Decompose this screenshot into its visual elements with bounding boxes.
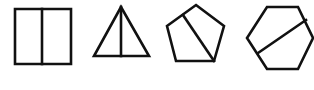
hexagon-divider-line bbox=[258, 20, 306, 53]
square-shape bbox=[15, 9, 71, 64]
pentagon-shape bbox=[167, 5, 224, 61]
shapes-figure bbox=[0, 0, 314, 90]
triangle-shape bbox=[94, 7, 149, 56]
pentagon-divider-line bbox=[183, 15, 214, 61]
hexagon-shape bbox=[247, 7, 313, 69]
